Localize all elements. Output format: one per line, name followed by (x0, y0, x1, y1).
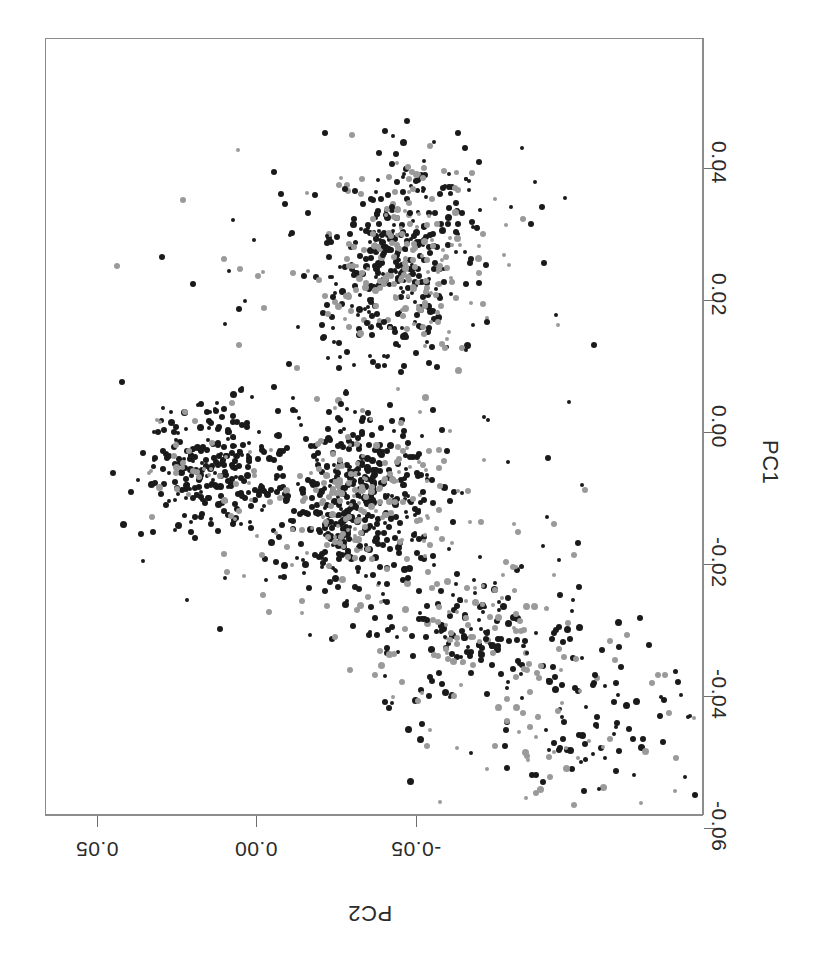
scatter-point (527, 689, 533, 695)
scatter-point (603, 756, 607, 760)
scatter-point (358, 487, 365, 494)
scatter-point (540, 663, 546, 669)
scatter-point (448, 191, 453, 196)
scatter-point (234, 506, 240, 512)
scatter-point (369, 313, 375, 319)
scatter-point (325, 234, 329, 238)
scatter-point (274, 477, 278, 481)
scatter-point (190, 468, 196, 474)
scatter-point (167, 499, 171, 503)
scatter-point (333, 535, 337, 539)
scatter-point (355, 492, 361, 498)
scatter-point (389, 476, 396, 483)
scatter-point (209, 484, 213, 488)
scatter-point (370, 499, 377, 506)
scatter-point (357, 253, 363, 259)
scatter-point (400, 189, 406, 195)
scatter-point (353, 527, 357, 531)
scatter-point (334, 234, 340, 240)
scatter-point (196, 474, 202, 480)
scatter-point (504, 696, 510, 702)
scatter-point (382, 363, 387, 368)
scatter-point (490, 650, 496, 656)
scatter-point (338, 429, 343, 434)
scatter-point (611, 699, 617, 705)
scatter-point (224, 499, 228, 503)
scatter-point (345, 407, 349, 411)
scatter-point (268, 487, 274, 493)
scatter-point (308, 633, 312, 637)
scatter-point (366, 286, 372, 292)
scatter-point (376, 486, 382, 492)
scatter-point (402, 172, 406, 176)
scatter-point (350, 623, 356, 629)
scatter-point (649, 680, 655, 686)
scatter-point (228, 483, 234, 489)
scatter-point (336, 495, 340, 499)
scatter-point (498, 671, 504, 677)
scatter-point (612, 657, 618, 663)
scatter-point (407, 499, 411, 503)
scatter-point (350, 517, 356, 523)
axis-line-pc2 (45, 815, 703, 816)
scatter-point (390, 701, 394, 705)
scatter-point (323, 472, 330, 479)
scatter-point (436, 266, 442, 272)
scatter-point (198, 446, 204, 452)
scatter-point (683, 775, 687, 779)
scatter-point (326, 356, 330, 360)
scatter-point (354, 607, 360, 613)
scatter-point (252, 238, 256, 242)
scatter-point (373, 233, 379, 239)
scatter-point (149, 469, 153, 473)
scatter-point (369, 514, 374, 519)
scatter-point (404, 118, 410, 124)
scatter-point (448, 236, 452, 240)
scatter-point (372, 467, 376, 471)
scatter-point (421, 556, 427, 562)
scatter-point (427, 232, 433, 238)
scatter-point (410, 653, 416, 659)
scatter-point (637, 615, 643, 621)
scatter-point (367, 297, 373, 303)
scatter-point (421, 165, 427, 171)
scatter-point (180, 460, 186, 466)
scatter-point (325, 426, 331, 432)
scatter-point (408, 465, 412, 469)
scatter-point (430, 238, 434, 242)
scatter-point (278, 575, 282, 579)
scatter-point (567, 747, 574, 754)
scatter-point (371, 243, 377, 249)
scatter-point (215, 442, 221, 448)
scatter-point (444, 623, 448, 627)
scatter-point (161, 481, 167, 487)
scatter-point (238, 387, 244, 393)
scatter-point (233, 481, 239, 487)
scatter-point (545, 455, 551, 461)
scatter-point (285, 493, 291, 499)
scatter-point (418, 687, 424, 693)
scatter-point (324, 502, 330, 508)
scatter-point (251, 468, 257, 474)
scatter-point (344, 349, 350, 355)
scatter-point (360, 271, 366, 277)
scatter-point (395, 263, 401, 269)
scatter-point (179, 487, 185, 493)
scatter-point (356, 586, 362, 592)
scatter-point (196, 484, 202, 490)
scatter-point (614, 725, 618, 729)
scatter-point (416, 273, 422, 279)
scatter-point (277, 448, 283, 454)
scatter-point (426, 360, 432, 366)
scatter-point (423, 234, 429, 240)
scatter-point (351, 272, 357, 278)
scatter-point (244, 420, 250, 426)
scatter-point (395, 275, 401, 281)
scatter-point (274, 473, 280, 479)
scatter-point (386, 651, 393, 658)
scatter-point (353, 534, 357, 538)
scatter-point (223, 453, 228, 458)
scatter-point (425, 473, 429, 477)
scatter-point (371, 471, 378, 478)
scatter-point (382, 244, 389, 251)
